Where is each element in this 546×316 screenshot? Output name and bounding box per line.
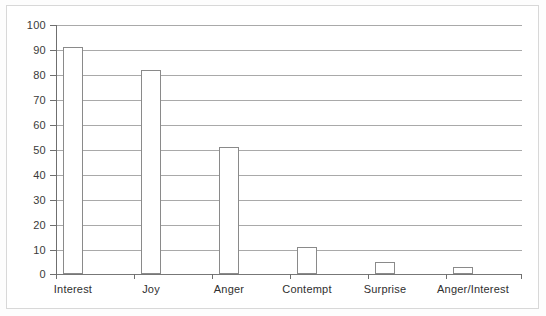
axis-baseline [56,274,522,275]
x-tick-1 [134,274,135,279]
gridline-60 [56,125,522,126]
y-tick-label-100-holder: 100 [0,20,46,31]
bar-joy[interactable] [141,70,161,274]
bar-contempt[interactable] [297,247,317,274]
y-tick-10 [50,250,56,251]
x-label-interest: Interest [33,283,113,295]
gridline-20 [56,225,522,226]
x-tick-3 [290,274,291,279]
y-tick-label-60: 60 [2,120,46,131]
gridline-90 [56,50,522,51]
y-tick-label-70: 70 [2,95,46,106]
x-label-contempt: Contempt [267,283,347,295]
y-tick-90 [50,50,56,51]
y-tick-label-20: 20 [2,220,46,231]
y-tick-label-10-holder: 10 [0,245,46,256]
y-tick-40 [50,175,56,176]
x-tick-2 [212,274,213,279]
bar-anger[interactable] [219,147,239,274]
y-axis-line [56,25,57,275]
x-label-anger: Anger [189,283,269,295]
y-tick-label-80-holder: 80 [0,70,46,81]
y-tick-label-60-holder: 60 [0,120,46,131]
plot-area: 100 90 80 70 60 50 40 30 20 10 0 [0,0,546,316]
x-label-joy: Joy [111,283,191,295]
gridline-50 [56,150,522,151]
gridline-30 [56,200,522,201]
gridline-100 [56,25,522,26]
x-label-surprise: Surprise [345,283,425,295]
y-tick-20 [50,225,56,226]
gridline-40 [56,175,522,176]
y-tick-label-90: 90 [2,45,46,56]
gridline-70 [56,100,522,101]
y-tick-label-30: 30 [2,195,46,206]
y-tick-label-0-holder: 0 [0,269,46,280]
y-tick-70 [50,100,56,101]
x-tick-0 [56,274,57,279]
x-label-anger-interest: Anger/Interest [418,283,528,295]
y-tick-label-50-holder: 50 [0,145,46,156]
y-tick-label-40: 40 [2,170,46,181]
y-tick-30 [50,200,56,201]
bar-surprise[interactable] [375,262,395,274]
y-tick-80 [50,75,56,76]
y-tick-label-40-holder: 40 [0,170,46,181]
gridline-80 [56,75,522,76]
bar-anger-interest[interactable] [453,267,473,274]
y-tick-label-100: 100 [2,20,46,31]
y-tick-100 [50,25,56,26]
y-tick-label-20-holder: 20 [0,220,46,231]
y-tick-50 [50,150,56,151]
x-tick-4 [368,274,369,279]
x-tick-6 [521,274,522,279]
y-tick-60 [50,125,56,126]
y-tick-label-0: 0 [2,269,46,280]
y-tick-label-10: 10 [2,245,46,256]
y-tick-label-90-holder: 90 [0,45,46,56]
y-tick-label-70-holder: 70 [0,95,46,106]
y-tick-label-80: 80 [2,70,46,81]
y-tick-label-30-holder: 30 [0,195,46,206]
gridline-10 [56,250,522,251]
bar-interest[interactable] [63,47,83,274]
chart-figure: 100 90 80 70 60 50 40 30 20 10 0 [0,0,546,316]
x-tick-5 [446,274,447,279]
y-tick-label-50: 50 [2,145,46,156]
